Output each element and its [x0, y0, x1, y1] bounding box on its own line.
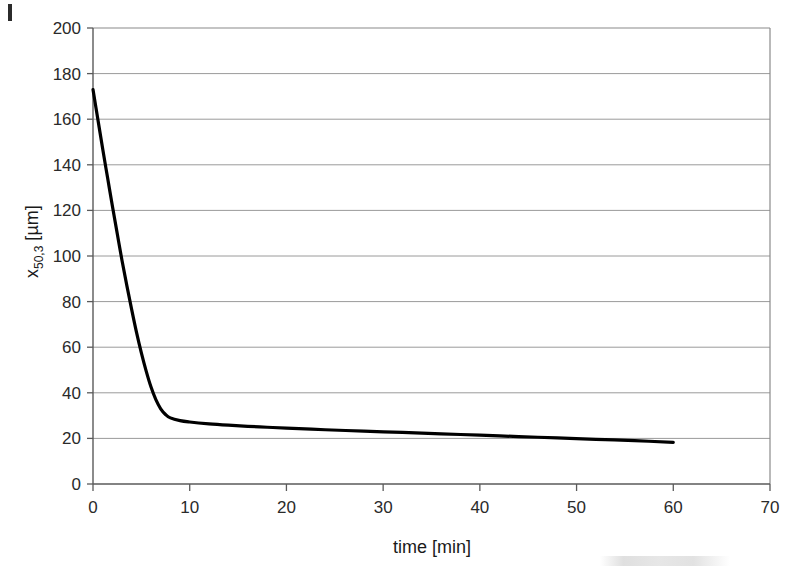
y-tick-label: 0 [72, 475, 81, 494]
x-axis-title: time [min] [393, 537, 471, 557]
y-tick-label: 160 [53, 110, 81, 129]
x-tick-label: 0 [88, 498, 97, 517]
x-tick-label: 40 [470, 498, 489, 517]
y-tick-label: 20 [62, 429, 81, 448]
y-tick-label: 180 [53, 65, 81, 84]
y-axis-title-subscript: 50,3 [32, 245, 46, 269]
y-axis-title-unit: [µm] [22, 205, 42, 240]
y-axis-tick-labels: 020406080100120140160180200 [53, 19, 81, 494]
y-tick-label: 60 [62, 338, 81, 357]
x-tick-label: 20 [277, 498, 296, 517]
y-tick-label: 120 [53, 201, 81, 220]
y-tick-label: 80 [62, 293, 81, 312]
x-tick-label: 30 [374, 498, 393, 517]
svg-text:x50,3 [µm]: x50,3 [µm] [22, 205, 46, 278]
x-tick-label: 10 [180, 498, 199, 517]
y-axis-ticks [87, 28, 93, 484]
x-tick-label: 70 [761, 498, 780, 517]
figure-container: 020406080100120140160180200 010203040506… [0, 0, 799, 573]
gridlines-horizontal [93, 74, 770, 439]
x-tick-label: 60 [664, 498, 683, 517]
y-tick-label: 200 [53, 19, 81, 38]
x-axis-ticks [93, 484, 770, 491]
scan-artifact-smudge [600, 556, 730, 566]
y-axis-title-base: x [22, 269, 42, 278]
y-tick-label: 140 [53, 156, 81, 175]
y-axis-title: x50,3 [µm] [22, 205, 46, 278]
y-tick-label: 40 [62, 384, 81, 403]
x-tick-label: 50 [567, 498, 586, 517]
y-tick-label: 100 [53, 247, 81, 266]
x-axis-tick-labels: 010203040506070 [88, 498, 779, 517]
data-series-line [93, 90, 673, 443]
chart-canvas: 020406080100120140160180200 010203040506… [0, 0, 799, 573]
